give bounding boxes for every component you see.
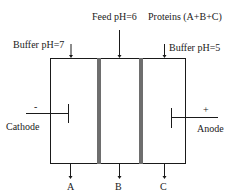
- cathode-sign: -: [34, 101, 37, 112]
- outlet-arrow-a: [69, 164, 73, 179]
- cathode-label: Cathode: [6, 121, 39, 132]
- membrane-left: [97, 58, 101, 164]
- inlet-arrow-right: [163, 44, 167, 58]
- outlet-label-c: C: [160, 181, 167, 192]
- anode-label: Anode: [197, 123, 224, 134]
- diagram-canvas: [0, 0, 233, 195]
- outlet-label-a: A: [67, 181, 74, 192]
- inlet-arrow-feed: [118, 30, 122, 58]
- cell-box: [51, 59, 186, 164]
- outlet-arrow-c: [163, 164, 167, 179]
- membrane-right: [139, 58, 143, 164]
- feed-ph-label: Feed pH=6: [92, 11, 137, 22]
- outlet-arrow-b: [118, 164, 122, 179]
- anode-sign: +: [203, 104, 209, 115]
- buffer-left-label: Buffer pH=7: [13, 39, 64, 50]
- inlet-arrow-left: [69, 44, 73, 58]
- outlet-label-b: B: [115, 181, 122, 192]
- buffer-right-label: Buffer pH=5: [169, 42, 220, 53]
- proteins-label: Proteins (A+B+C): [148, 11, 222, 22]
